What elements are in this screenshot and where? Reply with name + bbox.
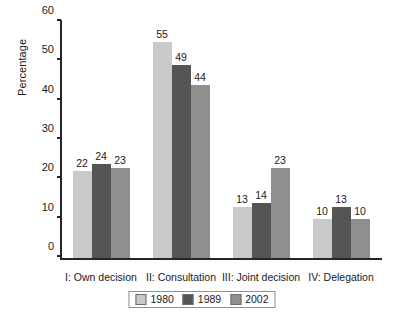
legend-swatch — [183, 294, 194, 305]
y-tick-label: 10 — [42, 201, 61, 213]
bar-value-label: 23 — [274, 154, 286, 166]
y-tick-label: 0 — [48, 240, 61, 252]
bar: 55 — [153, 42, 172, 258]
y-tick-label: 50 — [42, 43, 61, 55]
y-tick-label: 40 — [42, 83, 61, 95]
y-tick-mark — [57, 98, 61, 100]
y-tick-label: 60 — [42, 4, 61, 16]
bar: 23 — [271, 168, 290, 258]
bar-value-label: 49 — [175, 51, 187, 63]
bar-value-label: 22 — [76, 157, 88, 169]
bar: 23 — [111, 168, 130, 258]
legend-label: 1989 — [198, 294, 221, 305]
bar: 49 — [172, 65, 191, 258]
y-tick-mark — [57, 58, 61, 60]
bar-value-label: 44 — [194, 71, 206, 83]
y-tick-mark — [57, 137, 61, 139]
bar-group: 131423III: Joint decision — [233, 22, 290, 258]
bar: 10 — [313, 219, 332, 258]
bar-group: 101310IV: Delegation — [313, 22, 370, 258]
bar: 24 — [92, 164, 111, 258]
y-tick-label: 20 — [42, 161, 61, 173]
legend-item: 1980 — [135, 294, 173, 305]
bar: 10 — [351, 219, 370, 258]
bar-value-label: 10 — [354, 205, 366, 217]
legend-item: 2002 — [230, 294, 268, 305]
legend-label: 2002 — [245, 294, 268, 305]
legend-swatch — [135, 294, 146, 305]
y-tick-mark — [57, 255, 61, 257]
bar-value-label: 24 — [95, 150, 107, 162]
y-tick-mark — [57, 216, 61, 218]
x-axis-category-label: IV: Delegation — [308, 271, 374, 283]
x-axis-category-label: I: Own decision — [65, 271, 137, 283]
x-axis-category-label: III: Joint decision — [222, 271, 300, 283]
legend-label: 1980 — [150, 294, 173, 305]
y-tick-label: 30 — [42, 122, 61, 134]
bar-chart: Percentage 0102030405060 222423I: Own de… — [0, 0, 404, 327]
bar-value-label: 13 — [236, 193, 248, 205]
bar: 44 — [191, 85, 210, 258]
chart-legend: 198019892002 — [128, 291, 275, 308]
bar-group: 554944II: Consultation — [153, 22, 210, 258]
bar-value-label: 23 — [114, 154, 126, 166]
x-axis-line — [60, 258, 382, 260]
bar-group: 222423I: Own decision — [73, 22, 130, 258]
y-axis-title: Percentage — [16, 0, 28, 96]
bar: 13 — [332, 207, 351, 258]
bar-value-label: 13 — [335, 193, 347, 205]
legend-swatch — [230, 294, 241, 305]
bar-value-label: 10 — [316, 205, 328, 217]
bar: 14 — [252, 203, 271, 258]
plot-area: 0102030405060 222423I: Own decision55494… — [61, 22, 381, 258]
bar: 13 — [233, 207, 252, 258]
legend-item: 1989 — [183, 294, 221, 305]
x-axis-category-label: II: Consultation — [146, 271, 216, 283]
y-tick-mark — [57, 176, 61, 178]
y-tick-mark — [57, 19, 61, 21]
bar-value-label: 55 — [156, 28, 168, 40]
bar-value-label: 14 — [255, 189, 267, 201]
bar: 22 — [73, 171, 92, 258]
